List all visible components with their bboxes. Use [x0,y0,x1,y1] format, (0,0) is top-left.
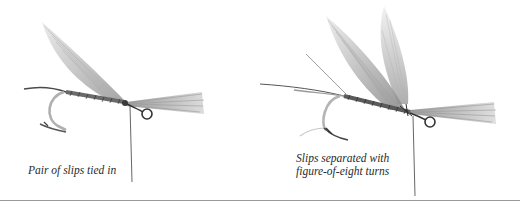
caption-line-2: figure-of-eight turns [296,165,389,178]
tail-fibers-icon [126,92,204,114]
bobbin-thread-icon [413,116,415,196]
hook-eye-icon [142,109,152,119]
caption-line-1: Slips separated with [296,152,389,165]
panel-slips-separated: Slips separated with figure-of-eight tur… [260,0,520,200]
caption-slips-tied-in: Pair of slips tied in [28,164,116,177]
hook-eye-icon [425,117,435,127]
divider-rule [0,200,520,201]
caption-slips-separated: Slips separated with figure-of-eight tur… [296,152,389,178]
tail-fibers-icon [410,102,496,124]
loose-fiber-icon [306,54,346,94]
bobbin-thread-icon [130,106,132,182]
wing-slip-icon [42,22,124,102]
panel-slips-tied-in: Pair of slips tied in [0,0,260,200]
